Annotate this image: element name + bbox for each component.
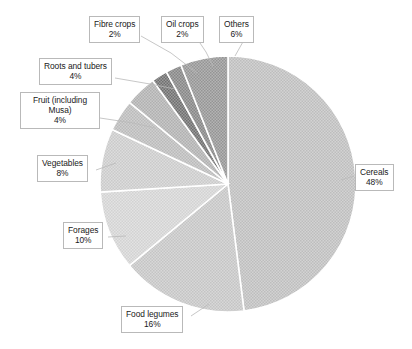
slice-label-vegetables-name: Vegetables bbox=[42, 158, 83, 168]
slice-label-oil-crops-pct: 2% bbox=[166, 29, 199, 39]
slice-label-roots-and-tubers[interactable]: Roots and tubers 4% bbox=[39, 58, 112, 85]
slice-label-forages[interactable]: Forages 10% bbox=[63, 222, 103, 249]
slice-label-forages-pct: 10% bbox=[68, 235, 98, 245]
slice-label-cereals-pct: 48% bbox=[360, 177, 389, 187]
slice-label-cereals[interactable]: Cereals 48% bbox=[355, 164, 394, 191]
pie-slice-cereals[interactable] bbox=[228, 56, 356, 311]
pie-chart-figure: Fibre crops 2% Oil crops 2% Others 6% Ro… bbox=[0, 0, 412, 349]
slice-label-fruit-name-line2: Musa) bbox=[25, 105, 95, 115]
slice-label-others-pct: 6% bbox=[224, 29, 249, 39]
slice-label-oil-crops[interactable]: Oil crops 2% bbox=[161, 16, 204, 43]
slice-label-fibre-crops-pct: 2% bbox=[94, 29, 135, 39]
slice-label-roots-and-tubers-name: Roots and tubers bbox=[44, 61, 107, 71]
slice-label-vegetables[interactable]: Vegetables 8% bbox=[37, 155, 88, 182]
slice-label-fibre-crops[interactable]: Fibre crops 2% bbox=[89, 16, 140, 43]
slice-label-fruit-pct: 4% bbox=[25, 115, 95, 125]
slice-label-vegetables-pct: 8% bbox=[42, 168, 83, 178]
slice-label-food-legumes-name: Food legumes bbox=[126, 309, 178, 319]
slice-label-forages-name: Forages bbox=[68, 225, 98, 235]
slice-label-others-name: Others bbox=[224, 19, 249, 29]
slice-label-fruit[interactable]: Fruit (including Musa) 4% bbox=[20, 92, 100, 129]
slice-label-roots-and-tubers-pct: 4% bbox=[44, 71, 107, 81]
slice-label-others[interactable]: Others 6% bbox=[219, 16, 254, 43]
slice-label-food-legumes-pct: 16% bbox=[126, 319, 178, 329]
pie-slices-group bbox=[100, 56, 356, 312]
slice-label-fibre-crops-name: Fibre crops bbox=[94, 19, 135, 29]
slice-label-oil-crops-name: Oil crops bbox=[166, 19, 199, 29]
slice-label-food-legumes[interactable]: Food legumes 16% bbox=[121, 306, 183, 333]
slice-label-fruit-name-line1: Fruit (including bbox=[25, 95, 95, 105]
slice-label-cereals-name: Cereals bbox=[360, 167, 389, 177]
